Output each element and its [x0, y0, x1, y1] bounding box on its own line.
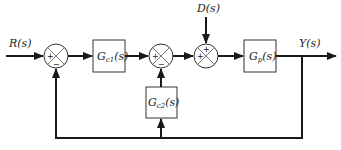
- gp-block: Gp(s): [244, 40, 277, 72]
- summing-junction-2: + −: [149, 44, 173, 69]
- svg-text:Gp(s): Gp(s): [249, 50, 277, 64]
- svg-text:D(s): D(s): [196, 2, 220, 15]
- disturbance-signal-label: D(s): [196, 2, 220, 15]
- plus-sign: +: [203, 45, 210, 54]
- gc1-block: Gc1(s): [93, 40, 128, 72]
- svg-text:R(s): R(s): [8, 37, 32, 50]
- gc2-block: Gc2(s): [146, 87, 179, 118]
- minus-sign: −: [53, 60, 60, 69]
- svg-text:Y(s): Y(s): [299, 37, 321, 50]
- block-diagram: R(s) + − Gc1(s) + − D(s) + + Gp: [0, 0, 341, 150]
- summing-junction-1: + −: [44, 44, 68, 69]
- minus-sign: −: [158, 60, 165, 69]
- output-signal-label: Y(s): [299, 37, 321, 50]
- input-signal-label: R(s): [8, 37, 32, 50]
- summing-junction-3: + +: [194, 44, 218, 68]
